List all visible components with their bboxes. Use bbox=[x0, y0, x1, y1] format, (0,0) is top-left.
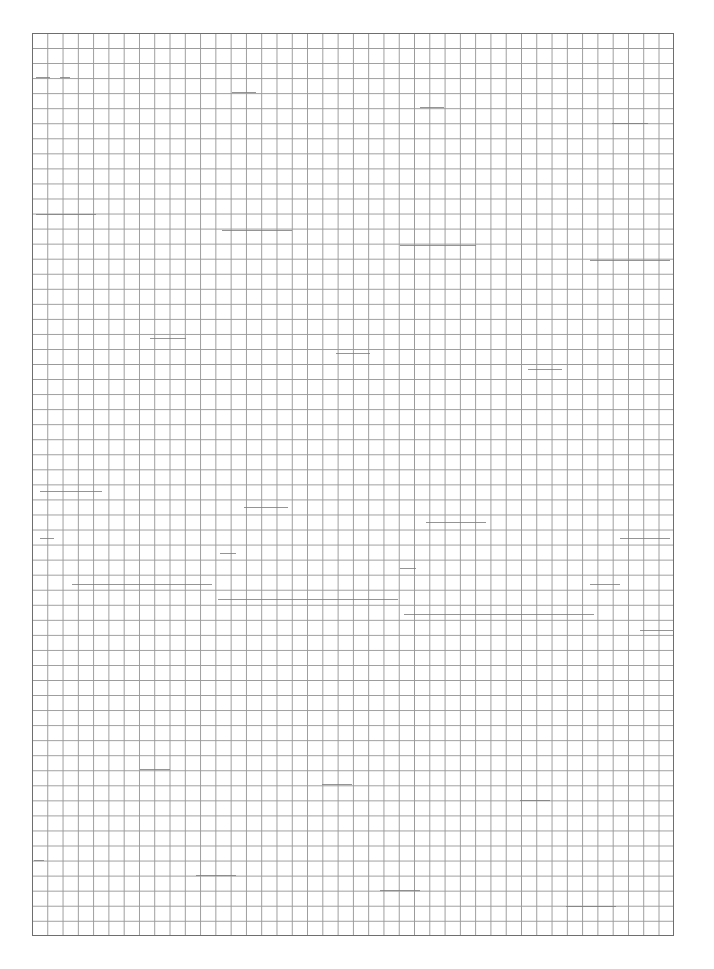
scan-artifact bbox=[612, 123, 648, 124]
scan-artifact bbox=[40, 538, 54, 539]
scan-artifact bbox=[426, 522, 486, 523]
scan-artifact bbox=[232, 92, 256, 93]
scan-artifact bbox=[620, 538, 670, 539]
grid-area bbox=[32, 33, 674, 936]
scan-artifact bbox=[150, 338, 186, 339]
scan-artifact bbox=[590, 584, 620, 585]
scan-artifact bbox=[400, 245, 476, 246]
scan-artifact bbox=[60, 77, 70, 78]
scan-artifact bbox=[640, 630, 674, 631]
scan-artifact bbox=[528, 369, 562, 370]
scan-artifact bbox=[218, 599, 398, 600]
scan-artifact bbox=[72, 584, 212, 585]
graph-paper-sheet bbox=[0, 0, 714, 969]
scan-artifact bbox=[400, 568, 416, 569]
scan-artifact bbox=[36, 77, 50, 78]
scan-artifact bbox=[380, 890, 420, 891]
scan-artifact bbox=[196, 875, 236, 876]
scan-artifact bbox=[40, 491, 102, 492]
scan-artifact bbox=[420, 107, 444, 108]
scan-artifact bbox=[336, 353, 370, 354]
scan-artifact bbox=[220, 553, 236, 554]
scan-artifact bbox=[34, 860, 44, 861]
scan-artifact bbox=[404, 614, 594, 615]
scan-artifact bbox=[222, 230, 292, 231]
scan-artifact bbox=[566, 906, 616, 907]
scan-artifact bbox=[244, 507, 288, 508]
scan-artifact bbox=[140, 769, 170, 770]
scan-artifact bbox=[36, 214, 96, 215]
scan-artifact bbox=[590, 260, 670, 261]
scan-artifact bbox=[520, 800, 550, 801]
scan-artifact bbox=[322, 784, 352, 785]
